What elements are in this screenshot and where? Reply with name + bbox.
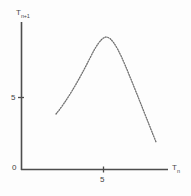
origin-tick-label: 0	[12, 164, 16, 172]
return-map-figure: Tn+1 Tn 5 5 0	[0, 0, 191, 196]
x-axis-label-subscript: n	[177, 168, 180, 174]
y-axis-tick-label-5: 5	[11, 94, 15, 102]
x-axis-tick-label-5: 5	[100, 176, 104, 184]
y-axis-label: Tn+1	[16, 9, 30, 19]
return-map-curve	[56, 37, 156, 142]
return-map-curve-shadow	[56, 37, 156, 142]
return-map-curve-group	[56, 37, 156, 142]
x-axis-label: Tn	[172, 164, 180, 174]
plot-canvas	[0, 0, 191, 196]
y-axis-label-subscript: n+1	[21, 13, 30, 19]
